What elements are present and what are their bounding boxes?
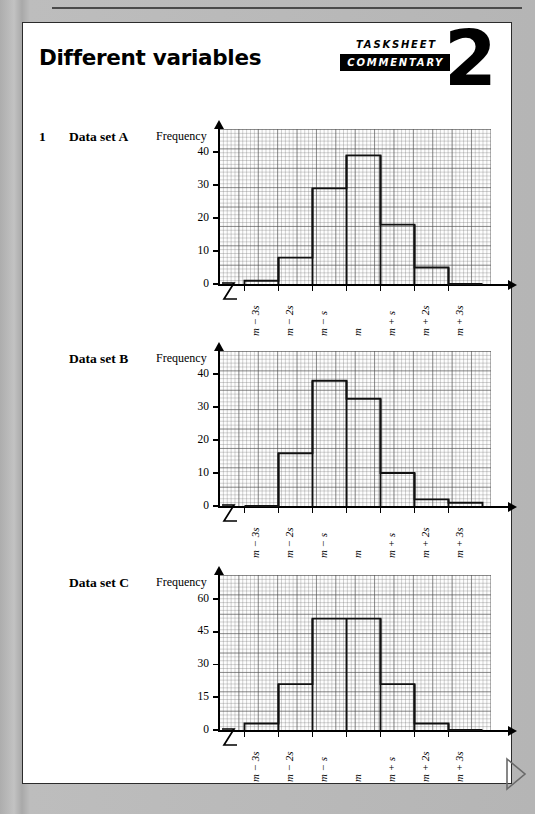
y-tick-label: 60 (179, 592, 209, 604)
x-tick-mark (244, 507, 246, 513)
x-tick-label: m − 3s (249, 305, 261, 336)
y-tick-label: 0 (179, 499, 209, 511)
page-header: Different variables TASKSHEET COMMENTARY… (39, 37, 499, 117)
x-tick-mark (346, 507, 348, 513)
x-axis-arrow-icon (508, 502, 517, 512)
y-tick-label: 15 (179, 690, 209, 702)
x-tick-label: m (351, 328, 363, 336)
x-tick-mark (414, 285, 416, 291)
y-tick-mark (213, 472, 218, 474)
x-tick-mark (414, 731, 416, 737)
x-tick-label: m + s (385, 757, 397, 782)
x-tick-label: m + 2s (419, 751, 431, 782)
chart-label-c: Data set C (69, 575, 129, 591)
y-tick-label: 10 (179, 466, 209, 478)
y-tick-mark (213, 283, 218, 285)
chart-label-a: Data set A (69, 129, 128, 145)
x-tick-label: m − 3s (249, 527, 261, 558)
y-tick-mark (213, 598, 218, 600)
x-tick-mark (278, 731, 280, 737)
plot-area: 010203040m − 3sm − 2sm − smm + sm + 2sm … (219, 129, 491, 284)
y-axis-title: Frequency (156, 575, 207, 590)
document-page: Different variables TASKSHEET COMMENTARY… (22, 22, 512, 784)
x-tick-mark (380, 731, 382, 737)
question-number: 1 (39, 129, 46, 145)
x-tick-label: m + 3s (453, 527, 465, 558)
x-tick-label: m (351, 774, 363, 782)
plot-area: 010203040m − 3sm − 2sm − smm + sm + 2sm … (219, 351, 491, 506)
y-tick-label: 20 (179, 211, 209, 223)
y-tick-mark (213, 373, 218, 375)
x-tick-label: m − 2s (283, 305, 295, 336)
page-title: Different variables (39, 45, 261, 70)
y-axis-arrow-icon (214, 120, 224, 129)
y-tick-mark (213, 696, 218, 698)
y-tick-label: 30 (179, 178, 209, 190)
y-tick-mark (213, 406, 218, 408)
y-tick-mark (213, 664, 218, 666)
x-tick-label: m + 2s (419, 527, 431, 558)
x-tick-label: m − 2s (283, 527, 295, 558)
x-axis-arrow-icon (508, 726, 517, 736)
top-rule-divider (52, 7, 522, 9)
y-tick-mark (213, 729, 218, 731)
x-tick-mark (244, 285, 246, 291)
x-axis-arrow-icon (508, 280, 517, 290)
badge-commentary-label: COMMENTARY (340, 54, 450, 71)
y-tick-label: 0 (179, 277, 209, 289)
y-tick-mark (213, 505, 218, 507)
badge-tasksheet-label: TASKSHEET (356, 39, 437, 50)
y-axis-arrow-icon (214, 566, 224, 575)
x-tick-mark (312, 285, 314, 291)
x-tick-label: m + 3s (453, 305, 465, 336)
y-axis-title: Frequency (156, 129, 207, 144)
y-tick-label: 30 (179, 400, 209, 412)
x-tick-mark (380, 285, 382, 291)
chart-label-b: Data set B (69, 351, 128, 367)
x-tick-mark (346, 731, 348, 737)
y-tick-label: 20 (179, 433, 209, 445)
y-axis-title: Frequency (156, 351, 207, 366)
y-tick-mark (213, 631, 218, 633)
x-tick-label: m − s (317, 533, 329, 558)
y-tick-mark (213, 217, 218, 219)
x-tick-mark (346, 285, 348, 291)
y-tick-label: 30 (179, 657, 209, 669)
y-tick-label: 45 (179, 624, 209, 636)
x-tick-mark (312, 731, 314, 737)
x-tick-mark (244, 731, 246, 737)
y-tick-label: 40 (179, 367, 209, 379)
badge-number: 2 (444, 21, 497, 97)
y-tick-mark (213, 250, 218, 252)
x-tick-label: m − s (317, 311, 329, 336)
x-tick-label: m − 2s (283, 751, 295, 782)
x-tick-label: m + s (385, 311, 397, 336)
x-tick-mark (414, 507, 416, 513)
x-tick-label: m (351, 550, 363, 558)
y-tick-label: 10 (179, 244, 209, 256)
x-tick-label: m − 3s (249, 751, 261, 782)
plot-area: 015304560m − 3sm − 2sm − smm + sm + 2sm … (219, 575, 491, 730)
x-tick-mark (380, 507, 382, 513)
y-tick-label: 40 (179, 145, 209, 157)
x-tick-mark (448, 285, 450, 291)
x-tick-mark (448, 731, 450, 737)
x-tick-label: m + 2s (419, 305, 431, 336)
x-tick-mark (448, 507, 450, 513)
x-tick-label: m + s (385, 533, 397, 558)
y-tick-mark (213, 439, 218, 441)
x-tick-mark (312, 507, 314, 513)
y-tick-label: 0 (179, 723, 209, 735)
y-axis-arrow-icon (214, 342, 224, 351)
x-tick-label: m + 3s (453, 751, 465, 782)
tasksheet-badge: TASKSHEET COMMENTARY 2 (315, 37, 495, 115)
x-tick-mark (278, 285, 280, 291)
x-tick-label: m − s (317, 757, 329, 782)
y-tick-mark (213, 151, 218, 153)
x-tick-mark (278, 507, 280, 513)
y-tick-mark (213, 184, 218, 186)
